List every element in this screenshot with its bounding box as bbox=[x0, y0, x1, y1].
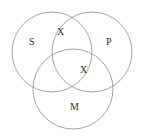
x-marker-s-p: X bbox=[57, 27, 64, 37]
venn-circles-canvas bbox=[0, 0, 143, 139]
venn-diagram: S P M X X bbox=[0, 0, 143, 139]
circle-label-p: P bbox=[106, 37, 112, 47]
x-marker-s-p-m: X bbox=[80, 65, 87, 75]
circle-m bbox=[33, 49, 113, 129]
circle-label-m: M bbox=[70, 102, 79, 112]
circle-label-s: S bbox=[29, 37, 35, 47]
